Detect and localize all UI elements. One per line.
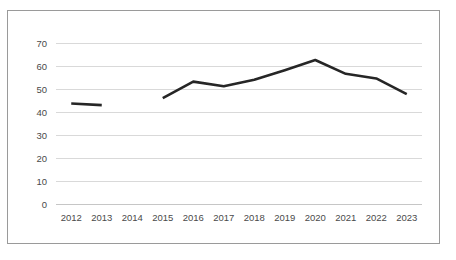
y-tick-label: 60 xyxy=(36,61,47,72)
series-line-segment xyxy=(163,60,407,98)
y-tick-label: 20 xyxy=(36,153,47,164)
series-line-segment xyxy=(71,103,102,105)
x-tick-label: 2014 xyxy=(122,212,143,223)
x-axis-tick-labels: 2012201320142015201620172018201920202021… xyxy=(61,212,418,223)
y-tick-label: 50 xyxy=(36,84,47,95)
plot-area: 010203040506070 201220132014201520162017… xyxy=(8,11,439,243)
y-tick-label: 10 xyxy=(36,176,47,187)
x-tick-label: 2021 xyxy=(335,212,356,223)
y-tick-label: 0 xyxy=(42,199,47,210)
chart-figure-frame: 010203040506070 201220132014201520162017… xyxy=(7,10,440,244)
y-tick-label: 30 xyxy=(36,130,47,141)
chart-page: 010203040506070 201220132014201520162017… xyxy=(0,0,456,260)
line-chart: 010203040506070 201220132014201520162017… xyxy=(8,11,439,243)
x-tick-label: 2022 xyxy=(366,212,387,223)
x-tick-label: 2016 xyxy=(183,212,204,223)
x-tick-label: 2017 xyxy=(213,212,234,223)
x-tick-label: 2013 xyxy=(91,212,112,223)
x-tick-label: 2015 xyxy=(152,212,173,223)
x-tick-label: 2018 xyxy=(244,212,265,223)
x-tick-label: 2019 xyxy=(274,212,295,223)
y-tick-label: 40 xyxy=(36,107,47,118)
y-tick-label: 70 xyxy=(36,38,47,49)
x-tick-label: 2023 xyxy=(396,212,417,223)
gridlines-group xyxy=(56,44,422,205)
x-tick-label: 2020 xyxy=(305,212,326,223)
x-tick-label: 2012 xyxy=(61,212,82,223)
y-axis-tick-labels: 010203040506070 xyxy=(36,38,47,210)
